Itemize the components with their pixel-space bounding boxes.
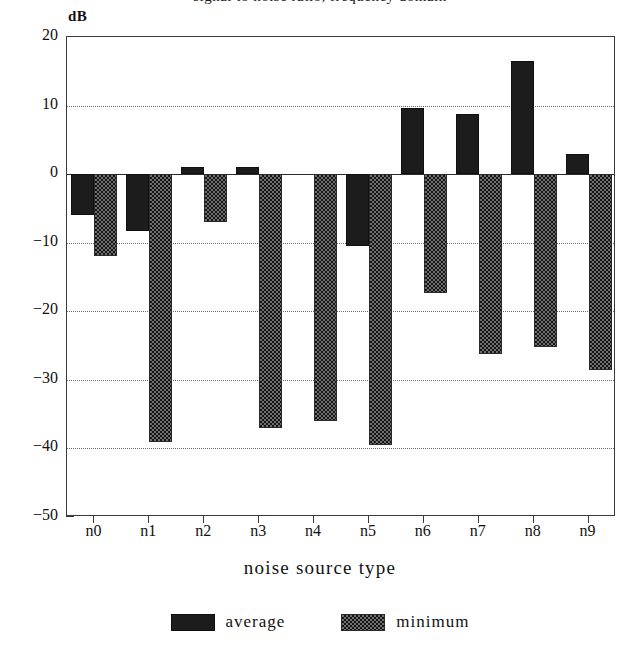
bar-n7-avg [456,114,479,174]
legend-swatch-minimum [341,614,385,631]
bar-n8-min [534,174,557,347]
chart-figure: signal to noise ratio, frequency domain … [0,0,640,664]
x-axis-tick-label-n6: n6 [400,522,446,540]
x-axis-tick-label-n2: n2 [180,522,226,540]
y-axis-tick-label: −50 [6,507,58,523]
y-axis-tick-label: 0 [6,164,58,180]
bar-n2-avg [181,167,204,174]
plot-inner [67,37,614,515]
plot-area [66,36,615,516]
bar-n2-min [204,174,227,222]
bar-n5-min [369,174,392,445]
x-axis-tick-label-n5: n5 [345,522,391,540]
bar-n3-avg [236,167,259,174]
x-axis-tick-label-n7: n7 [455,522,501,540]
x-axis-tick-label-n0: n0 [70,522,116,540]
y-axis-tick-label: −40 [6,438,58,454]
x-axis-tick-label-n8: n8 [510,522,556,540]
x-axis-tick-label-n1: n1 [125,522,171,540]
bar-n0-min [94,174,117,256]
x-axis-tick-label-n4: n4 [290,522,336,540]
bar-n8-avg [511,61,534,174]
y-axis-tick-label: −30 [6,370,58,386]
bar-n0-avg [71,174,94,215]
y-axis-tick-label: 20 [6,27,58,43]
legend-item-minimum: minimum [341,612,469,632]
bar-n6-avg [401,108,424,175]
y-axis-tick-label: 10 [6,96,58,112]
legend-item-average: average [171,612,286,632]
chart-title-clipped: signal to noise ratio, frequency domain [0,0,640,4]
y-axis-tick [66,516,74,517]
bar-n5-avg [346,174,369,246]
bar-n1-min [149,174,172,441]
bar-n9-avg [566,154,589,175]
bar-n1-avg [126,174,149,231]
legend-swatch-average [171,614,215,631]
x-axis-tick-label-n9: n9 [565,522,611,540]
y-axis-tick-label: −20 [6,301,58,317]
chart-legend: averageminimum [0,612,640,632]
legend-label-average: average [226,612,286,632]
gridline [67,448,614,449]
bar-n3-min [259,174,282,428]
bar-n6-min [424,174,447,293]
y-axis-unit-label: dB [68,8,87,25]
bar-n9-min [589,174,612,369]
y-axis-tick-label: −10 [6,233,58,249]
legend-label-minimum: minimum [396,612,469,632]
x-axis-tick-label-n3: n3 [235,522,281,540]
x-axis-title: noise source type [0,557,640,579]
bar-n7-min [479,174,502,354]
bar-n4-min [314,174,337,421]
